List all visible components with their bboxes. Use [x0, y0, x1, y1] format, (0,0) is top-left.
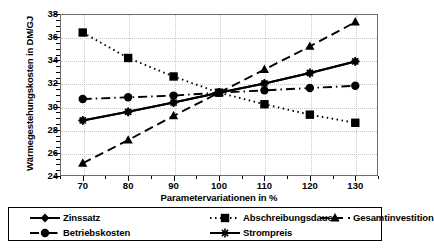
legend-key: [29, 211, 61, 225]
data-point: [306, 84, 314, 92]
data-point: [351, 17, 360, 25]
legend-label: Gesamtinvestition: [353, 212, 434, 223]
x-tick-minor: [196, 176, 197, 179]
legend-item[interactable]: Strompreis: [209, 225, 336, 240]
data-point: [215, 88, 224, 97]
legend-item[interactable]: Abschreibungsdauer: [209, 210, 336, 225]
x-tick-mark: [264, 176, 265, 181]
legend-marker-star-icon: [209, 226, 241, 240]
data-point: [351, 57, 360, 66]
x-tick-minor: [105, 176, 106, 179]
legend-key: [319, 211, 351, 225]
x-tick-mark: [310, 176, 311, 181]
data-point: [351, 119, 359, 127]
legend-item[interactable]: Zinssatz: [29, 210, 130, 225]
data-point: [124, 54, 132, 62]
x-tick-label: 110: [244, 180, 284, 191]
data-point: [169, 98, 178, 107]
legend-key: [29, 226, 61, 240]
x-tick-minor: [242, 176, 243, 179]
x-tick-mark: [128, 176, 129, 181]
x-tick-mark: [219, 176, 220, 181]
data-point: [79, 28, 87, 36]
x-tick-label: 100: [199, 180, 239, 191]
series-layer: [60, 14, 378, 176]
data-point: [351, 82, 359, 90]
x-tick-minor: [60, 176, 61, 179]
chart-legend: ZinssatzBetriebskosten Abschreibungsdaue…: [8, 207, 382, 241]
data-point: [260, 79, 269, 88]
x-axis-title: Parametervariationen in %: [60, 192, 378, 203]
series-line: [83, 33, 356, 123]
legend-marker-triangle-icon: [319, 211, 351, 225]
data-point: [124, 135, 133, 143]
legend-item[interactable]: Gesamtinvestition: [319, 210, 434, 225]
x-tick-label: 120: [290, 180, 330, 191]
x-tick-mark: [174, 176, 175, 181]
legend-key: [209, 211, 241, 225]
legend-marker-circle-icon: [29, 226, 61, 240]
data-point: [124, 93, 132, 101]
x-tick-label: 70: [63, 180, 103, 191]
x-tick-mark: [355, 176, 356, 181]
series-strompreis: [78, 57, 359, 125]
legend-label: Zinssatz: [63, 212, 100, 223]
x-tick-label: 80: [108, 180, 148, 191]
series-abschreibungsdauer: [79, 28, 360, 127]
x-tick-minor: [333, 176, 334, 179]
legend-label: Betriebskosten: [63, 227, 130, 238]
x-tick-minor: [287, 176, 288, 179]
legend-marker-square-icon: [209, 211, 241, 225]
x-tick-minor: [378, 176, 379, 179]
x-tick-mark: [83, 176, 84, 181]
data-point: [260, 65, 269, 73]
data-point: [124, 107, 133, 116]
data-point: [78, 116, 87, 125]
data-point: [169, 72, 177, 80]
x-tick-label: 130: [335, 180, 375, 191]
data-point: [305, 69, 314, 78]
data-point: [306, 110, 314, 118]
data-point: [260, 100, 268, 108]
x-tick-label: 90: [154, 180, 194, 191]
legend-key: [209, 226, 241, 240]
legend-item[interactable]: Betriebskosten: [29, 225, 130, 240]
legend-marker-diamond-icon: [29, 211, 61, 225]
legend-label: Strompreis: [243, 227, 292, 238]
x-tick-minor: [151, 176, 152, 179]
data-point: [79, 95, 87, 103]
